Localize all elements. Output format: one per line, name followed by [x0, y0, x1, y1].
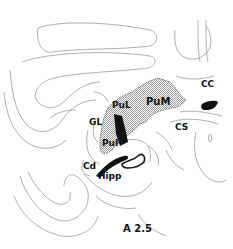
label-pul-lower: PuI: [102, 139, 118, 148]
cc-dark-spot: [201, 101, 218, 110]
label-hipp: Hipp: [98, 172, 122, 181]
brain-section-diagram: PuM PuL GL PuI Cd Hipp CC CS A 2.5: [0, 0, 233, 249]
small-oval-marker: [209, 134, 212, 142]
label-pum: PuM: [146, 97, 170, 107]
section-label: A 2.5: [123, 224, 152, 234]
label-cc: CC: [201, 80, 214, 89]
label-pul-upper: PuL: [112, 101, 131, 110]
label-cd: Cd: [83, 162, 96, 171]
label-cs: CS: [175, 123, 188, 132]
brain-outline-drawing: [0, 0, 233, 249]
label-gl: GL: [89, 118, 102, 127]
